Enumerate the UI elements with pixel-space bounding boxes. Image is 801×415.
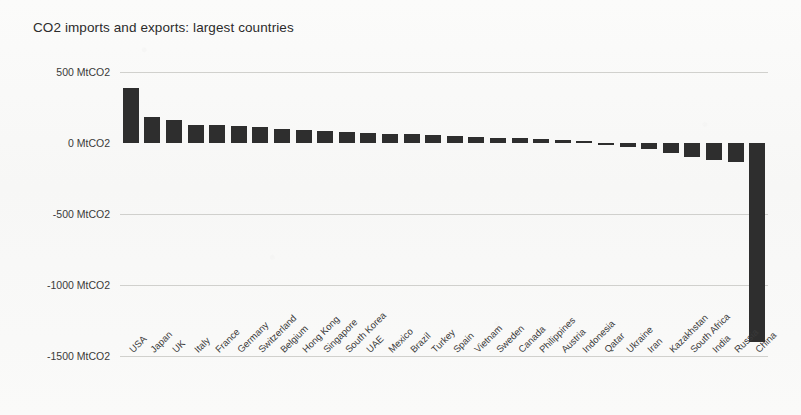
bar	[188, 125, 204, 143]
bar	[576, 141, 592, 143]
x-axis-tick-label: USA	[127, 333, 149, 355]
bar	[317, 131, 333, 143]
y-gridline	[120, 356, 768, 357]
x-axis-tick-label: UK	[170, 338, 187, 355]
bar	[598, 143, 614, 145]
bar	[144, 117, 160, 143]
bar	[555, 140, 571, 143]
bar	[231, 126, 247, 143]
bar	[382, 134, 398, 143]
y-gridline	[120, 285, 768, 286]
y-axis-tick-label: 500 MtCO2	[14, 66, 110, 78]
bar	[641, 143, 657, 149]
bar	[252, 127, 268, 143]
y-axis-tick-label: -1000 MtCO2	[14, 279, 110, 291]
bar	[447, 136, 463, 143]
y-axis-tick-label: -500 MtCO2	[14, 208, 110, 220]
bar	[684, 143, 700, 157]
bar	[296, 130, 312, 143]
y-axis-tick-label: -1500 MtCO2	[14, 350, 110, 362]
bar	[339, 132, 355, 143]
bar	[468, 137, 484, 143]
bar	[209, 125, 225, 143]
bar	[663, 143, 679, 153]
bar	[533, 139, 549, 143]
x-axis-tick-label: Turkey	[429, 327, 457, 355]
x-axis-tick-label: Italy	[192, 335, 212, 355]
bar	[512, 138, 528, 143]
y-axis-tick-label: 0 MtCO2	[14, 137, 110, 149]
bar	[620, 143, 636, 147]
y-gridline	[120, 214, 768, 215]
bar	[123, 88, 139, 143]
bar	[404, 134, 420, 143]
bar	[728, 143, 744, 162]
bar	[166, 120, 182, 143]
bar-chart-plot-area: 500 MtCO20 MtCO2-500 MtCO2-1000 MtCO2-15…	[0, 0, 801, 415]
bar	[490, 138, 506, 143]
y-gridline	[120, 72, 768, 73]
bar	[749, 143, 765, 342]
x-axis-tick-label: Japan	[148, 329, 174, 355]
bar	[706, 143, 722, 160]
bar	[360, 133, 376, 143]
bar	[274, 129, 290, 143]
bar	[425, 135, 441, 143]
